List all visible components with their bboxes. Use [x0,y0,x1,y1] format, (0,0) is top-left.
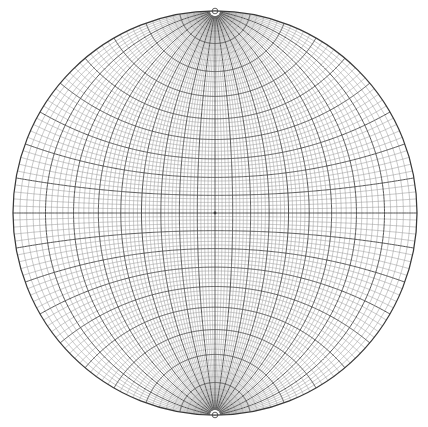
center-dot [214,212,217,215]
stereonet-canvas [0,0,428,427]
stereonet-figure [0,0,428,427]
